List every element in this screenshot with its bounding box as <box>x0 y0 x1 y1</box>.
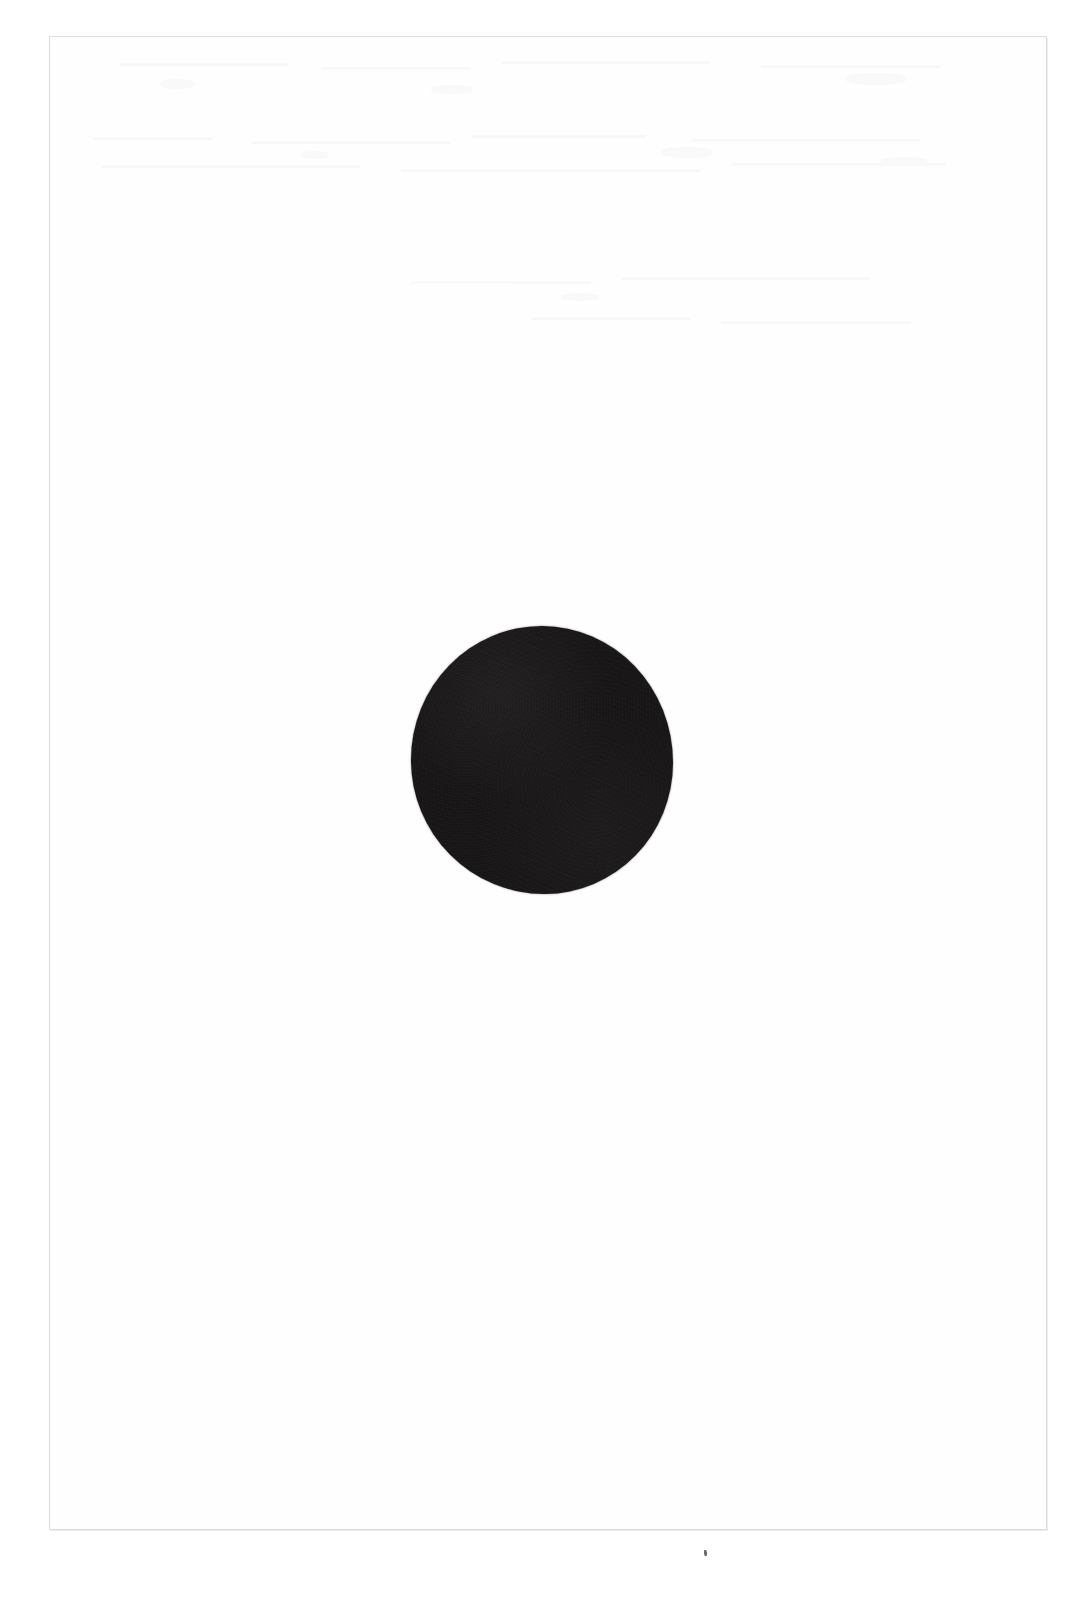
ghost-blob <box>561 293 599 301</box>
ghost-line <box>531 317 691 320</box>
ghost-blob <box>661 147 713 158</box>
ghost-line <box>761 65 941 68</box>
ghost-line <box>501 61 711 64</box>
bleed-through-ghost-marks <box>50 37 1048 437</box>
ghost-line <box>93 137 213 140</box>
ghost-line <box>721 321 911 324</box>
scanned-sheet-border <box>49 36 1047 1530</box>
ghost-line <box>321 67 471 70</box>
ghost-line <box>101 165 361 168</box>
ghost-blob <box>161 79 195 89</box>
ghost-blob <box>881 157 927 166</box>
figure-container <box>411 626 673 894</box>
solid-black-disc <box>411 626 673 894</box>
ghost-blob <box>301 151 329 159</box>
ghost-line <box>251 141 451 144</box>
ghost-line <box>731 163 946 166</box>
ghost-blob <box>431 85 473 94</box>
scanned-page-canvas <box>0 0 1086 1605</box>
ghost-line <box>401 169 701 172</box>
ghost-blob <box>846 73 906 85</box>
ghost-line <box>471 135 646 138</box>
ghost-line <box>411 281 591 284</box>
ink-speck <box>704 1550 708 1556</box>
ghost-line <box>621 277 871 280</box>
ghost-line <box>691 139 921 142</box>
ghost-line <box>119 63 289 66</box>
